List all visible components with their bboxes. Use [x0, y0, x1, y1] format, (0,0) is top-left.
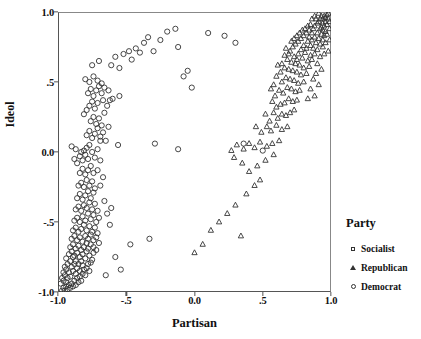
x-tick-mark [194, 292, 195, 296]
x-axis-label: Partisan [58, 316, 331, 331]
x-tick-mark [126, 292, 127, 296]
circle-marker-icon [345, 284, 361, 289]
legend-item-label: Democrat [361, 282, 401, 292]
y-tick-mark [54, 11, 58, 12]
plot-area [58, 12, 331, 292]
y-tick-mark [54, 151, 58, 152]
square-glyph [351, 247, 355, 251]
legend-item-republican[interactable]: Republican [345, 258, 421, 277]
legend-title: Party [345, 216, 421, 231]
x-tick-mark [57, 292, 58, 296]
legend-item-socialist[interactable]: Socialist [345, 239, 421, 258]
legend-item-label: Socialist [361, 244, 395, 254]
x-tick-label: 0.0 [188, 295, 201, 306]
y-axis-label: Ideol [3, 112, 18, 128]
x-tick-label: -.5 [121, 295, 132, 306]
scatter-plot-figure: -1.0-.50.0.51.0 -1.0-.50.0.51.0 Ideol Pa… [0, 0, 421, 339]
y-tick-mark [54, 221, 58, 222]
x-tick-label: .5 [259, 295, 266, 306]
triangle-glyph [350, 265, 356, 270]
y-tick-mark [54, 81, 58, 82]
square-marker-icon [345, 247, 361, 251]
legend-item-label: Republican [361, 263, 407, 273]
y-tick-label: -.5 [43, 217, 54, 228]
legend: Party SocialistRepublicanDemocrat [345, 216, 421, 296]
x-tick-label: -1.0 [50, 295, 66, 306]
y-tick-label: 0.0 [41, 147, 54, 158]
circle-glyph [351, 284, 356, 289]
legend-entries: SocialistRepublicanDemocrat [345, 239, 421, 296]
x-tick-mark [330, 292, 331, 296]
legend-item-democrat[interactable]: Democrat [345, 277, 421, 296]
x-tick-mark [262, 292, 263, 296]
x-tick-label: 1.0 [325, 295, 338, 306]
triangle-marker-icon [345, 265, 361, 270]
y-tick-label: 1.0 [41, 7, 54, 18]
y-tick-label: .5 [47, 77, 54, 88]
